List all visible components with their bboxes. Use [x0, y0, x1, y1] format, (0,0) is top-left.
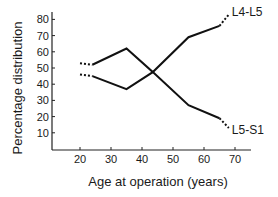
x-tick-label: 70 [229, 153, 241, 165]
x-tick-label: 40 [136, 153, 148, 165]
series-label-l4-l5: L4-L5 [232, 5, 263, 19]
y-tick-label: 70 [37, 30, 49, 42]
x-tick-label: 20 [74, 153, 86, 165]
series-l4-l5-dashed-end [220, 15, 229, 26]
y-tick-label: 20 [37, 111, 49, 123]
y-tick-label: 80 [37, 13, 49, 25]
series-l5-s1-dashed-end [220, 118, 229, 128]
x-tick-label: 30 [105, 153, 117, 165]
x-axis: 203040506070 [52, 147, 251, 165]
x-tick-label: 50 [167, 153, 179, 165]
series-lines: L4-L5L5-S1 [80, 5, 264, 137]
series-l5-s1-dashed-start [80, 74, 92, 76]
series-l5-s1-line [92, 72, 219, 118]
series-l4-l5-dashed-start [80, 63, 92, 65]
x-axis-title: Age at operation (years) [88, 174, 227, 189]
series-label-l5-s1: L5-S1 [232, 123, 264, 137]
y-tick-label: 10 [37, 127, 49, 139]
line-chart: 1020304050607080 203040506070 Percentage… [0, 0, 278, 197]
y-tick-label: 60 [37, 46, 49, 58]
y-tick-label: 30 [37, 94, 49, 106]
series-l4-l5-line [92, 26, 219, 72]
y-tick-label: 40 [37, 78, 49, 90]
x-tick-label: 60 [198, 153, 210, 165]
y-axis-title: Percentage distribution [10, 22, 25, 155]
y-tick-label: 50 [37, 62, 49, 74]
y-axis: 1020304050607080 [37, 12, 55, 150]
